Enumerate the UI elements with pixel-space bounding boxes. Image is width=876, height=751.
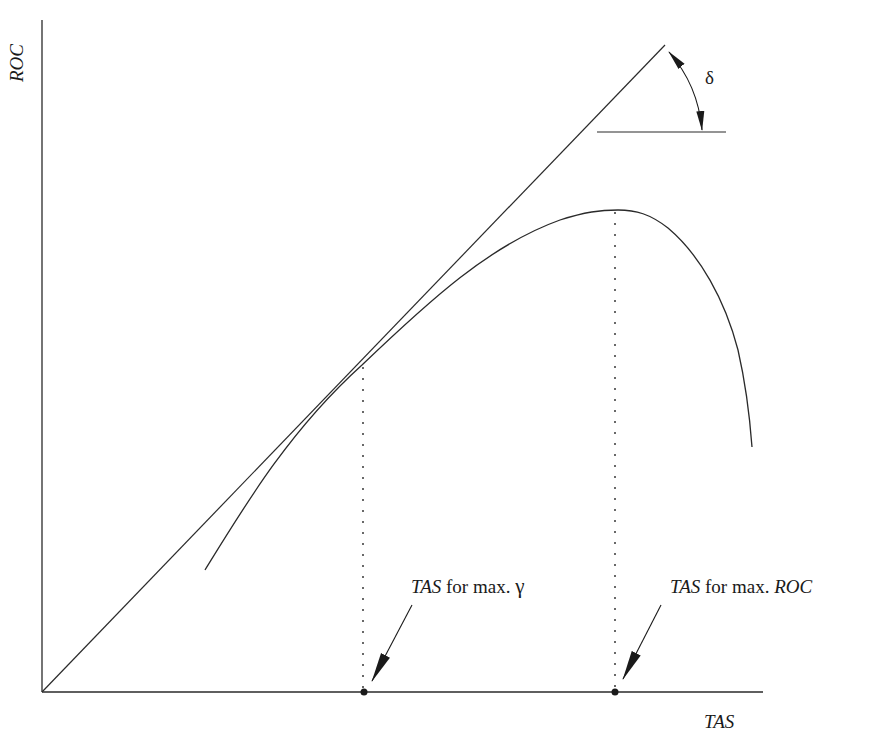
angle-delta-label: δ [705,67,714,88]
max-roc-arrow [623,605,661,679]
max-gamma-label-text: for max. [441,576,515,597]
max-roc-label: TAS for max. ROC [670,576,812,597]
max-roc-label-symbol: ROC [773,576,812,597]
x-axis-label: TAS [704,711,735,732]
angle-arc [669,52,702,130]
max-gamma-label-tas: TAS [411,576,442,597]
max-gamma-arrow [372,605,412,681]
max-roc-point [612,689,619,696]
y-axis-label: ROC [6,44,27,83]
max-roc-label-text: for max. [700,576,774,597]
roc-vs-tas-diagram: δ TAS for max. γ TAS for max. ROC ROC TA… [0,0,876,751]
max-gamma-point [361,689,368,696]
tangent-line [42,45,665,692]
max-gamma-label: TAS for max. γ [411,574,524,598]
max-gamma-label-symbol: γ [514,574,524,598]
max-roc-label-tas: TAS [670,576,701,597]
roc-curve [205,210,752,570]
